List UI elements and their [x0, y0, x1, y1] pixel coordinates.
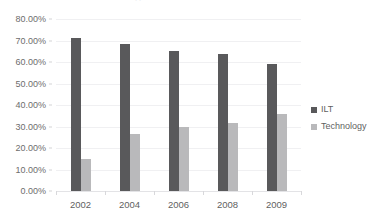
x-tick-mark	[105, 191, 106, 195]
x-axis: 20022004200620082009	[56, 191, 301, 217]
legend-label: Technology	[321, 122, 367, 131]
bar-ilt-2006	[169, 51, 179, 191]
bar-group	[218, 19, 238, 191]
x-tick-mark	[203, 191, 204, 195]
y-tick-label: 80.00%	[15, 15, 46, 24]
bar-ilt-2008	[218, 54, 228, 191]
x-tick-label: 2008	[217, 200, 238, 210]
chart-legend: ILTTechnology	[311, 101, 385, 135]
x-tick-label: 2009	[266, 200, 287, 210]
bar-technology-2008	[228, 123, 238, 191]
bar-technology-2006	[179, 127, 189, 192]
x-tick-mark	[56, 191, 57, 195]
bar-technology-2004	[130, 134, 140, 191]
x-tick-mark	[301, 191, 302, 195]
y-tick-label: 70.00%	[15, 36, 46, 45]
legend-label: ILT	[321, 105, 333, 114]
bar-technology-2009	[277, 114, 287, 191]
legend-swatch-icon	[311, 107, 317, 113]
legend-entry-ilt[interactable]: ILT	[311, 101, 385, 118]
x-tick-label: 2004	[119, 200, 140, 210]
y-tick-mark	[49, 148, 52, 149]
y-tick-label: 20.00%	[15, 144, 46, 153]
plot-area	[56, 19, 301, 191]
y-tick-label: 60.00%	[15, 58, 46, 67]
bar-ilt-2002	[71, 38, 81, 191]
x-tick-mark	[252, 191, 253, 195]
y-axis: 0.00%10.00%20.00%30.00%40.00%50.00%60.00…	[0, 19, 52, 191]
x-tick-label: 2002	[70, 200, 91, 210]
y-tick-mark	[49, 19, 52, 20]
bar-group	[120, 19, 140, 191]
bar-group	[71, 19, 91, 191]
bar-chart: clipped title text 0.00%10.00%20.00%30.0…	[0, 0, 388, 220]
x-tick-mark	[154, 191, 155, 195]
x-tick-label: 2006	[168, 200, 189, 210]
y-tick-mark	[49, 62, 52, 63]
y-tick-label: 10.00%	[15, 165, 46, 174]
y-tick-label: 50.00%	[15, 79, 46, 88]
y-tick-mark	[49, 169, 52, 170]
bar-group	[267, 19, 287, 191]
y-tick-label: 30.00%	[15, 122, 46, 131]
y-tick-label: 40.00%	[15, 101, 46, 110]
y-tick-mark	[49, 40, 52, 41]
y-tick-mark	[49, 191, 52, 192]
bar-ilt-2009	[267, 64, 277, 191]
y-tick-label: 0.00%	[20, 187, 46, 196]
y-tick-mark	[49, 83, 52, 84]
bar-technology-2002	[81, 159, 91, 191]
legend-swatch-icon	[311, 124, 317, 130]
y-tick-mark	[49, 126, 52, 127]
legend-entry-technology[interactable]: Technology	[311, 118, 385, 135]
chart-title-remnant: clipped title text	[128, 0, 378, 2]
bar-group	[169, 19, 189, 191]
bar-ilt-2004	[120, 44, 130, 191]
y-tick-mark	[49, 105, 52, 106]
